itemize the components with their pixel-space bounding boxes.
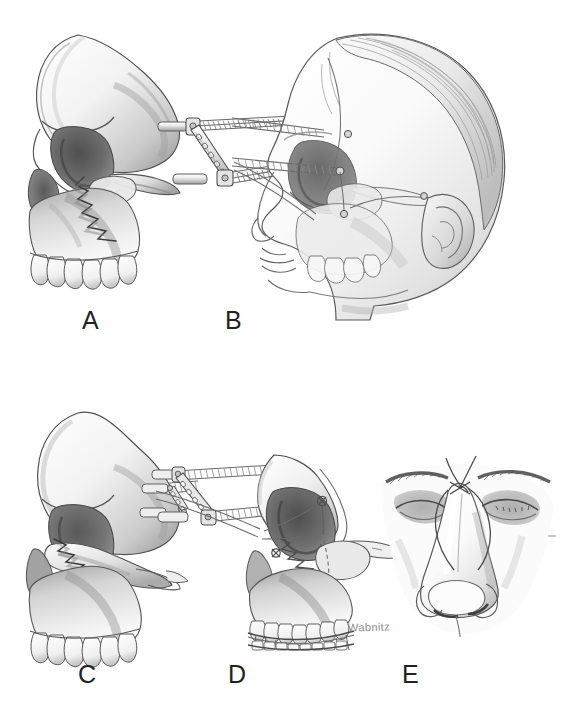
tooth bbox=[47, 257, 66, 287]
tooth bbox=[82, 260, 102, 289]
tooth bbox=[292, 625, 308, 646]
interosseous-wire-mid bbox=[272, 549, 280, 557]
wire-anchor-screw-lower bbox=[340, 210, 347, 217]
tooth bbox=[100, 259, 120, 288]
panel-e bbox=[372, 452, 557, 637]
tooth bbox=[64, 259, 84, 289]
panel-b bbox=[232, 22, 532, 322]
panel-label-b: B bbox=[225, 308, 242, 333]
panel-label-d: D bbox=[228, 662, 247, 687]
lips-line bbox=[260, 258, 294, 263]
nasal-tip bbox=[429, 581, 485, 615]
lateral-tick-left bbox=[372, 548, 382, 550]
nasal-bridge bbox=[33, 129, 48, 175]
fixator-clamp-lower bbox=[217, 170, 233, 186]
arch-tip-c bbox=[166, 571, 188, 583]
tooth bbox=[31, 633, 49, 663]
fixator-clamp-lower-d bbox=[201, 510, 216, 525]
panel-e-artwork bbox=[372, 452, 557, 637]
panel-b-artwork bbox=[232, 22, 532, 322]
panel-label-e: E bbox=[402, 662, 419, 687]
tooth bbox=[100, 637, 120, 666]
temporal-screw bbox=[421, 193, 428, 200]
wire-anchor-screw-upper bbox=[344, 130, 351, 137]
tooth bbox=[31, 255, 49, 285]
upper-lip bbox=[262, 248, 286, 255]
tooth bbox=[320, 622, 336, 643]
lower-lip bbox=[262, 266, 296, 272]
neck-shading bbox=[342, 306, 408, 311]
tooth bbox=[118, 634, 137, 662]
panel-label-a: A bbox=[82, 308, 99, 333]
tooth bbox=[306, 624, 322, 645]
tooth bbox=[47, 635, 66, 665]
panel-label-c: C bbox=[78, 662, 97, 687]
chin bbox=[268, 280, 310, 293]
figure-canvas: A bbox=[0, 0, 582, 709]
tooth bbox=[118, 256, 137, 284]
